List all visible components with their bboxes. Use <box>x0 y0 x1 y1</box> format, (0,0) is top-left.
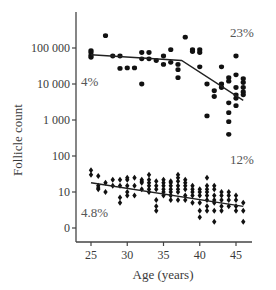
data-point <box>234 208 238 214</box>
data-point <box>190 200 194 206</box>
y-tick-label: 100 000 <box>31 41 70 55</box>
y-tick-label: 10 000 <box>37 77 70 91</box>
data-point <box>198 192 202 198</box>
y-ticks: 0101001 00010 000100 000 <box>31 41 76 235</box>
data-point <box>175 67 180 72</box>
data-point <box>197 64 202 69</box>
data-point <box>205 175 209 181</box>
data-point <box>212 219 216 225</box>
y-axis-title: Follicle count <box>10 104 25 176</box>
y-axis: 0101001 00010 000100 000 Follicle count <box>10 12 76 242</box>
data-point <box>190 49 195 54</box>
data-point <box>241 219 245 225</box>
data-point <box>204 113 209 118</box>
rate-annotation: 4% <box>81 74 99 89</box>
data-point <box>132 183 136 189</box>
x-axis: 2530354045 Age (years) <box>76 242 252 282</box>
data-point <box>161 62 166 67</box>
y-tick-label: 1 000 <box>43 113 70 127</box>
data-point <box>219 208 223 214</box>
data-point <box>233 72 238 77</box>
data-point <box>241 200 245 206</box>
rate-annotation: 12% <box>230 152 254 167</box>
data-point <box>117 66 122 71</box>
data-point <box>241 208 245 214</box>
data-point <box>169 197 173 203</box>
y-tick-label: 100 <box>52 149 70 163</box>
data-point <box>205 208 209 214</box>
data-point <box>146 50 151 55</box>
data-point <box>132 66 137 71</box>
data-point <box>183 35 188 40</box>
data-point <box>234 197 238 203</box>
data-point <box>175 75 180 80</box>
series-upper: 4%23% <box>81 25 254 137</box>
data-point <box>183 186 187 192</box>
data-point <box>197 50 202 55</box>
data-point <box>139 82 144 87</box>
plot-area: 4%23%4.8%12% <box>81 25 254 224</box>
data-point <box>226 100 231 105</box>
data-point <box>198 208 202 214</box>
data-point <box>226 119 231 124</box>
x-ticks: 2530354045 <box>85 242 242 262</box>
data-point <box>168 60 173 65</box>
data-point <box>219 64 224 69</box>
data-point <box>212 186 216 192</box>
data-point <box>198 214 202 220</box>
data-point <box>212 94 217 99</box>
data-point <box>103 189 107 195</box>
data-point <box>125 189 129 195</box>
data-point <box>118 195 122 201</box>
data-point <box>212 88 217 93</box>
data-point <box>233 54 238 59</box>
data-point <box>168 47 173 52</box>
scatter-chart: 0101001 00010 000100 000 Follicle count … <box>0 0 276 290</box>
rate-annotation: 23% <box>230 25 254 40</box>
fit-line <box>91 55 243 101</box>
data-point <box>139 50 144 55</box>
data-point <box>154 197 158 203</box>
data-point <box>241 85 246 90</box>
data-point <box>125 66 130 71</box>
data-point <box>154 186 158 192</box>
data-point <box>132 175 136 181</box>
data-point <box>175 62 180 67</box>
data-point <box>103 33 108 38</box>
x-tick-label: 40 <box>194 248 206 262</box>
data-point <box>176 197 180 203</box>
data-point <box>132 192 136 198</box>
data-point <box>233 103 238 108</box>
data-point <box>212 208 216 214</box>
data-point <box>233 85 238 90</box>
rate-annotation: 4.8% <box>81 205 108 220</box>
data-point <box>88 55 93 60</box>
x-tick-label: 30 <box>121 248 133 262</box>
y-tick-label: 10 <box>58 185 70 199</box>
data-point <box>96 173 100 179</box>
data-point <box>118 200 122 206</box>
data-point <box>226 110 231 115</box>
series-lower: 4.8%12% <box>81 152 254 225</box>
data-point <box>204 82 209 87</box>
data-point <box>241 92 246 97</box>
data-point <box>154 208 158 214</box>
data-point <box>226 79 231 84</box>
data-point <box>226 132 231 137</box>
y-tick-label: 0 <box>64 221 70 235</box>
data-point <box>227 197 231 203</box>
data-point <box>111 177 115 183</box>
x-tick-label: 45 <box>230 248 242 262</box>
x-tick-label: 35 <box>158 248 170 262</box>
data-point <box>118 177 122 183</box>
x-axis-title: Age (years) <box>133 267 194 282</box>
data-point <box>161 54 166 59</box>
data-point <box>198 200 202 206</box>
x-tick-label: 25 <box>85 248 97 262</box>
data-point <box>89 172 93 178</box>
data-point <box>241 80 246 85</box>
